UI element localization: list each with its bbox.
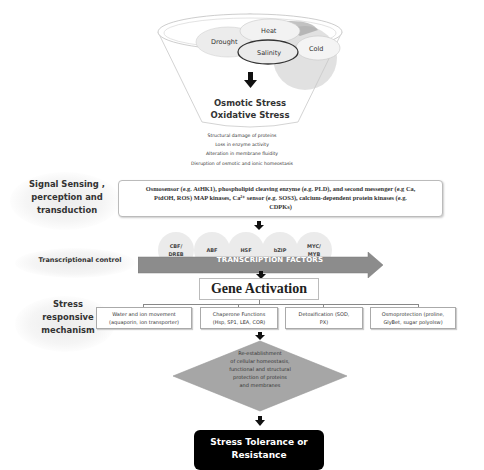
transcriptional-control-label: Transcriptional control [30,256,130,264]
stressor-cold: Cold [309,45,323,53]
transcription-factors-label: TRANSCRIPTION FACTORS [190,256,350,264]
mechanism-text: Osmoprotection (proline, [371,310,455,318]
osmotic-stress-label: Osmotic Stress [200,97,300,109]
mechanism-text: (Hsp, SP1, LEA, COR) [201,318,277,326]
tf-label: MYC/ [307,242,321,250]
diamond-text-line: protection of proteins [215,373,305,381]
down-arrow-icon [255,416,265,426]
signal-text-line: CDPKs) [125,202,436,211]
mechanism-text: GlyBet, sugar polyolsw) [371,318,455,326]
final-text-line: Stress Tolerance or [194,436,324,449]
effect-item: Loss in enzyme activity [150,140,334,149]
diamond-text-line: of cellular homeostasis, [215,357,305,365]
mechanism-text: Water and ion movement [97,310,191,318]
homeostasis-text: Re-establishment of cellular homeostasis… [215,349,305,389]
stressor-heat: Heat [261,27,276,35]
mechanism-text: PX) [286,318,362,326]
gene-activation-box: Gene Activation [199,278,319,300]
connector-line [143,304,418,305]
stress-funnel-graphic [150,0,350,150]
signal-label-line: perception and [22,191,112,204]
down-arrow-icon [255,332,265,340]
final-text-line: Resistance [194,449,324,462]
mechanism-text: (aquaporin, ion transporter) [97,318,191,326]
signal-text-line: PtdOH, ROS) MAP kinases, Ca²⁺ sensor (e.… [125,193,436,202]
signal-sensing-label: Signal Sensing , perception and transduc… [22,178,112,217]
signal-sensing-box: Osmosensor (e.g. AtHK1), phospholipid cl… [118,180,443,217]
oxidative-stress-label: Oxidative Stress [200,109,300,121]
tf-label: CBF/ [168,242,183,250]
mechanism-box-chaperone: Chaperone Functions (Hsp, SP1, LEA, COR) [200,307,278,329]
mechanism-box-osmoprotection: Osmoprotection (proline, GlyBet, sugar p… [370,307,456,329]
signal-label-line: transduction [22,204,112,217]
diamond-text-line: and membranes [215,381,305,389]
stressor-salinity: Salinity [257,49,281,57]
diamond-text-line: functional and structural [215,365,305,373]
mechanism-text: Chaperone Functions [201,310,277,318]
stressor-drought: Drought [211,38,237,46]
mechanism-text: Detoxification (SOD, [286,310,362,318]
effect-item: Alteration in membrane fluidity [150,149,334,158]
signal-text-line: Osmosensor (e.g. AtHK1), phospholipid cl… [125,184,436,193]
effect-item: Disruption of osmotic and ionic homeosta… [150,159,334,168]
down-arrow-icon [254,221,264,230]
connector-line [259,300,260,304]
diamond-text-line: Re-establishment [215,349,305,357]
mechanism-box-water-ion: Water and ion movement (aquaporin, ion t… [96,307,192,329]
mechanism-box-detoxification: Detoxification (SOD, PX) [285,307,363,329]
signal-label-line: Signal Sensing , [22,178,112,191]
stress-tolerance-box: Stress Tolerance or Resistance [194,430,324,470]
stress-effects-list: Structural damage of proteins Loss in en… [150,131,334,168]
effect-item: Structural damage of proteins [150,131,334,140]
